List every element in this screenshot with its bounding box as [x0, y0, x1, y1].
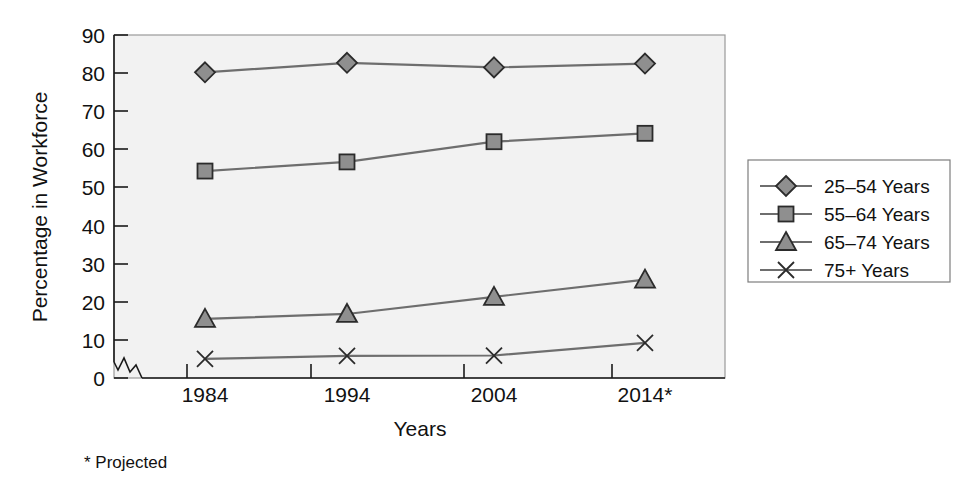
data-point-2-1: [198, 164, 213, 179]
y-tick-label-90: 90: [82, 24, 105, 47]
y-axis-title: Percentage in Workforce: [28, 92, 51, 323]
y-tick-label-40: 40: [82, 215, 105, 238]
legend-label-2: 55–64 Years: [824, 204, 930, 225]
y-tick-label-0: 0: [93, 367, 105, 390]
data-point-2-3: [487, 134, 502, 149]
y-axis-tick-labels: 0 10 20 30 40 50 60 70 80 90: [82, 24, 105, 390]
y-tick-label-60: 60: [82, 138, 105, 161]
x-tick-label-2014: 2014*: [618, 383, 673, 406]
legend-label-4: 75+ Years: [824, 260, 909, 281]
x-axis-title: Years: [394, 417, 447, 440]
x-axis-tick-labels: 1984 1994 2004 2014*: [182, 383, 673, 406]
line-chart-svg: 0 10 20 30 40 50 60 70 80 90 1984 1994 2…: [0, 0, 978, 487]
chart-figure: 0 10 20 30 40 50 60 70 80 90 1984 1994 2…: [0, 0, 978, 487]
y-tick-label-20: 20: [82, 291, 105, 314]
y-tick-label-50: 50: [82, 176, 105, 199]
data-point-2-2: [340, 154, 355, 169]
footnote-projected: * Projected: [84, 453, 167, 472]
legend-item-2[interactable]: 55–64 Years: [760, 204, 930, 225]
y-tick-label-30: 30: [82, 253, 105, 276]
x-tick-label-1994: 1994: [324, 383, 371, 406]
legend-item-1[interactable]: 25–54 Years: [760, 176, 930, 197]
legend-marker-square-icon: [779, 207, 794, 222]
data-point-2-4: [638, 126, 653, 141]
y-tick-label-70: 70: [82, 100, 105, 123]
y-tick-label-10: 10: [82, 329, 105, 352]
legend-label-3: 65–74 Years: [824, 232, 930, 253]
y-tick-label-80: 80: [82, 62, 105, 85]
x-tick-label-2004: 2004: [471, 383, 518, 406]
x-tick-label-1984: 1984: [182, 383, 229, 406]
legend-label-1: 25–54 Years: [824, 176, 930, 197]
legend-item-3[interactable]: 65–74 Years: [760, 232, 930, 253]
